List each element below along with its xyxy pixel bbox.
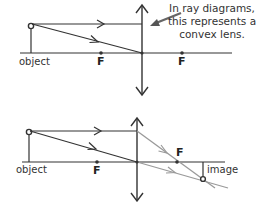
image-tip-marker [201,177,206,182]
focal-label-left: F [97,55,105,68]
annotation-line-1: In ray diagrams, [158,2,266,15]
focal-label-left: F [93,164,101,177]
focal-label-right: F [176,146,184,159]
lens-annotation: In ray diagrams, this represents a conve… [158,2,266,41]
focal-label-right: F [178,55,186,68]
object-top-marker [26,129,31,134]
focal-point-right [175,160,179,164]
bottom-diagram [22,118,228,201]
ray-center [32,24,142,53]
object-label: object [16,164,47,175]
image-label: image [207,164,238,175]
object-label: object [19,56,50,67]
annotation-line-3: convex lens. [158,28,266,41]
annotation-line-2: this represents a [158,15,266,28]
ray-center [30,131,137,162]
